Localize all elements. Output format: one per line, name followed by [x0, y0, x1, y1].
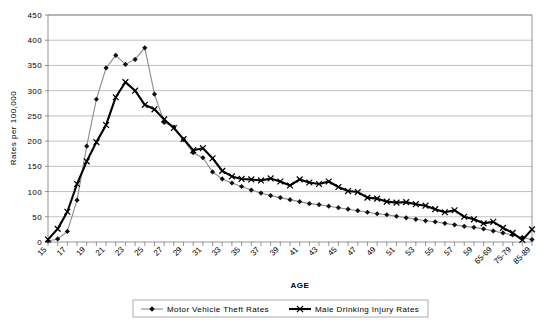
y-axis-title: Rates per 100,000 [9, 91, 18, 165]
y-tick-label: 350 [27, 61, 42, 70]
y-tick-label: 150 [27, 162, 42, 171]
legend-label: Male Drinking Injury Rates [315, 305, 419, 314]
y-tick-label: 450 [27, 11, 42, 20]
legend-label: Motor Vehicle Theft Rates [167, 305, 269, 314]
y-tick-label: 50 [32, 213, 42, 222]
x-axis-title: AGE [291, 281, 310, 290]
y-tick-label: 100 [27, 188, 42, 197]
y-tick-label: 300 [27, 87, 42, 96]
chart-container: 050100150200250300350400450 151719212325… [0, 0, 545, 323]
y-tick-label: 400 [27, 36, 42, 45]
y-tick-label: 250 [27, 112, 42, 121]
chart-background [0, 0, 545, 323]
y-tick-label: 200 [27, 137, 42, 146]
line-chart: 050100150200250300350400450 151719212325… [0, 0, 545, 323]
